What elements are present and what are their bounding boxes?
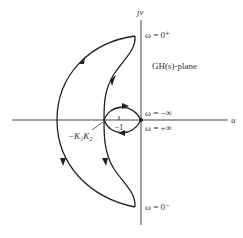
horizontal-axis-label: u [231,115,236,125]
crossing-pointer [92,122,103,130]
vertical-axis-label: jv [136,7,144,17]
omega-zero-plus-label: ω = 0⁺ [145,30,170,40]
plane-label: GH(s)-plane [152,61,197,71]
omega-zero-minus-label: ω = 0⁻ [145,202,170,212]
small-loop-upper [104,107,141,120]
critical-point-label: −1 [114,122,124,132]
origin-point [139,118,143,122]
omega-pos-inf-label: ω = +∞ [145,123,172,133]
nyquist-curve [57,36,141,207]
nyquist-diagram: jv u ω = 0⁺ GH(s)-plane ω = −∞ ω = +∞ −1… [0,0,243,238]
arrow-lower-outer-icon [60,158,66,166]
omega-neg-inf-label: ω = −∞ [145,108,172,118]
crossing-point-label: −K₁K₂ [68,131,92,141]
arrow-lower-inner-icon [102,158,108,166]
